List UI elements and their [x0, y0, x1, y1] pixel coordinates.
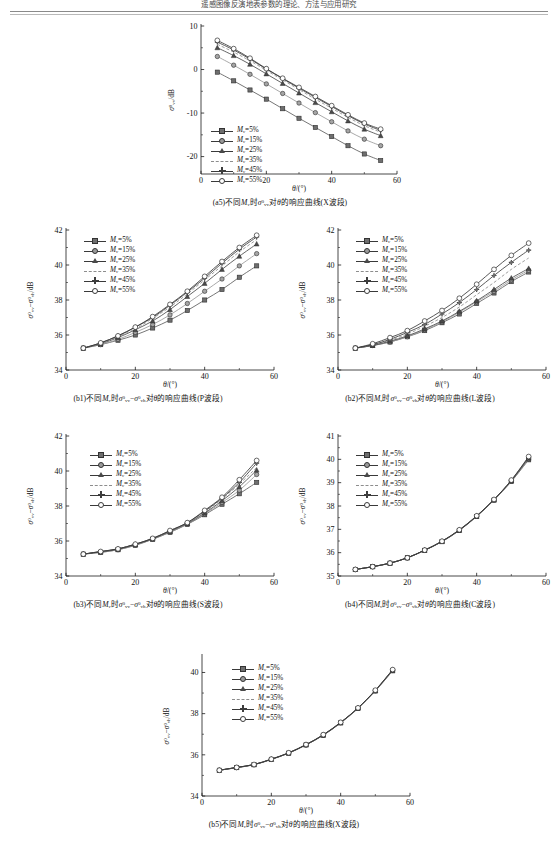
figure-a5: 100-10-200204060σ0vv/dBθ/(°)Mv=5%Mv=15%M… [155, 18, 405, 208]
legend-marker-icon-circle-o [356, 501, 378, 510]
x-axis-ticks-b5: 0204060 [200, 793, 414, 807]
legend-marker-icon-tri [232, 685, 254, 694]
y-axis-ticks-b1: 3436384042 [55, 226, 70, 375]
y-axis-ticks-b2: 3436384042 [327, 226, 342, 375]
figure-caption-b1: (b1)不同Mv时σ0vv−σ0vh对θ的响应曲线(P波段) [12, 395, 284, 404]
series-a5-2 [215, 45, 383, 138]
legend-marker-icon-none [211, 157, 233, 166]
legend-marker-icon-circle-o [356, 287, 378, 296]
svg-text:40: 40 [327, 261, 335, 270]
legend-marker-icon-none [356, 481, 378, 490]
svg-text:42: 42 [55, 432, 63, 441]
legend-item-0: Mv=5% [356, 450, 407, 460]
legend-marker-icon-tri [90, 471, 112, 480]
svg-text:40: 40 [327, 455, 335, 464]
legend-marker-icon-circle-o [211, 177, 233, 186]
legend-marker-icon-plus [356, 491, 378, 500]
svg-text:42: 42 [327, 226, 335, 235]
legend-item-5: Mv=55% [232, 714, 283, 724]
figure-b1: 34363840420204060σ0vv−σ0vh/dBθ/(°)Mv=5%M… [12, 222, 284, 404]
figure-caption-b4: (b4)不同Mv时σ0vv−σ0vh对θ的响应曲线(C波段) [284, 601, 556, 610]
x-axis-label-b3: θ/(°) [66, 586, 274, 595]
svg-text:36: 36 [55, 331, 63, 340]
legend-label-1: Mv=15% [236, 136, 262, 146]
legend-label-5: Mv=55% [381, 286, 407, 296]
legend-marker-icon-square [356, 451, 378, 460]
chart-canvas-a5: 100-10-200204060 [155, 18, 405, 198]
legend-item-1: Mv=15% [84, 246, 135, 256]
chart-canvas-b1: 34363840420204060 [12, 222, 284, 394]
chart-canvas-b2: 34363840420204060 [284, 222, 556, 394]
header-rule-thick [10, 11, 548, 12]
legend-b2: Mv=5%Mv=15%Mv=25%Mv=35%Mv=45%Mv=55% [356, 236, 407, 296]
plot-area-b5: 343638400204060σ0vv−σ0vh/dBθ/(°)Mv=5%Mv=… [148, 648, 420, 820]
legend-label-0: Mv=5% [236, 126, 259, 136]
legend-marker-icon-none [84, 267, 106, 276]
legend-marker-icon-none [356, 267, 378, 276]
legend-marker-icon-tri [356, 471, 378, 480]
legend-item-1: Mv=15% [211, 136, 262, 146]
legend-item-3: Mv=35% [84, 266, 135, 276]
figure-b2: 34363840420204060σ0vv−σ0vh/dBθ/(°)Mv=5%M… [284, 222, 556, 404]
y-axis-label-a5: σ0vv/dB [167, 89, 176, 111]
svg-text:38: 38 [191, 709, 199, 718]
svg-text:36: 36 [327, 331, 335, 340]
legend-marker-icon-circle-f [211, 137, 233, 146]
legend-marker-icon-none [232, 695, 254, 704]
y-axis-label-b5: σ0vv−σ0vh/dB [162, 708, 171, 745]
legend-item-4: Mv=45% [84, 276, 135, 286]
legend-marker-icon-square [211, 127, 233, 136]
legend-item-2: Mv=25% [232, 684, 283, 694]
running-head-title: 遥感图像反演地表参数的理论、方法与应用研究 [0, 0, 558, 9]
svg-text:-20: -20 [187, 152, 198, 161]
legend-label-0: Mv=5% [257, 664, 280, 674]
y-axis-ticks-b4: 35363738394041 [327, 432, 342, 581]
legend-label-3: Mv=35% [115, 480, 141, 490]
legend-label-5: Mv=55% [115, 500, 141, 510]
legend-item-0: Mv=5% [356, 236, 407, 246]
y-axis-label-b3: σ0vv−σ0vh/dB [26, 488, 35, 525]
svg-text:-10: -10 [187, 109, 198, 118]
legend-item-2: Mv=25% [84, 256, 135, 266]
legend-label-0: Mv=5% [381, 236, 404, 246]
svg-text:38: 38 [55, 296, 63, 305]
legend-label-3: Mv=35% [257, 694, 283, 704]
x-axis-label-b1: θ/(°) [66, 380, 274, 389]
legend-label-0: Mv=5% [109, 236, 132, 246]
legend-label-4: Mv=45% [381, 276, 407, 286]
legend-label-1: Mv=15% [109, 246, 135, 256]
svg-text:40: 40 [55, 467, 63, 476]
legend-label-2: Mv=25% [257, 684, 283, 694]
legend-label-1: Mv=15% [381, 460, 407, 470]
svg-text:38: 38 [327, 296, 335, 305]
y-axis-label-b4: σ0vv−σ0vh/dB [298, 488, 307, 525]
legend-item-5: Mv=55% [356, 286, 407, 296]
svg-text:34: 34 [327, 366, 335, 375]
legend-item-4: Mv=45% [90, 490, 141, 500]
legend-item-4: Mv=45% [232, 704, 283, 714]
legend-b5: Mv=5%Mv=15%Mv=25%Mv=35%Mv=45%Mv=55% [232, 664, 283, 724]
legend-label-1: Mv=15% [257, 674, 283, 684]
svg-text:36: 36 [327, 548, 335, 557]
legend-item-5: Mv=55% [84, 286, 135, 296]
legend-b3: Mv=5%Mv=15%Mv=25%Mv=35%Mv=45%Mv=55% [90, 450, 141, 510]
svg-text:34: 34 [55, 572, 63, 581]
chart-canvas-b5: 343638400204060 [148, 648, 420, 820]
legend-label-4: Mv=45% [109, 276, 135, 286]
figure-caption-a5: (a5)不同Mv时σ0vv对θ的响应曲线(X波段) [155, 199, 405, 208]
svg-text:39: 39 [327, 478, 335, 487]
legend-label-3: Mv=35% [381, 480, 407, 490]
svg-text:38: 38 [55, 502, 63, 511]
legend-marker-icon-plus [211, 167, 233, 176]
y-axis-ticks-b5: 34363840 [191, 668, 206, 801]
legend-item-1: Mv=15% [232, 674, 283, 684]
legend-marker-icon-plus [90, 491, 112, 500]
header-rule-thin [10, 14, 548, 15]
legend-label-4: Mv=45% [381, 490, 407, 500]
figure-caption-b5: (b5)不同Mv时σ0vv−σ0vh对θ的响应曲线(X波段) [148, 821, 420, 830]
legend-label-0: Mv=5% [381, 450, 404, 460]
legend-label-0: Mv=5% [115, 450, 138, 460]
legend-label-5: Mv=55% [109, 286, 135, 296]
plot-area-b4: 353637383940410204060σ0vv−σ0vh/dBθ/(°)Mv… [284, 428, 556, 600]
legend-marker-icon-square [356, 237, 378, 246]
